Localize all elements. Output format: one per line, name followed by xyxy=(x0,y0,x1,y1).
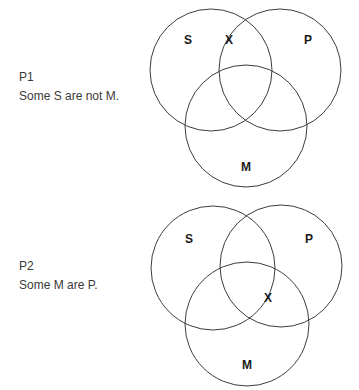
circle-p xyxy=(220,205,342,327)
venn-diagram-p2: SPMX xyxy=(151,205,342,386)
circle-label-m: M xyxy=(242,358,252,372)
circle-label-p: P xyxy=(305,232,313,246)
circle-p xyxy=(219,9,341,131)
circle-label-p: P xyxy=(304,33,312,47)
x-mark: X xyxy=(264,291,272,305)
circle-label-s: S xyxy=(184,33,192,47)
circle-s xyxy=(150,9,272,131)
circle-label-m: M xyxy=(241,160,251,174)
venn-diagrams: SPMXSPMX xyxy=(0,0,359,390)
venn-diagram-p1: SPMX xyxy=(150,9,341,187)
circle-s xyxy=(151,206,275,330)
x-mark: X xyxy=(225,33,233,47)
circle-label-s: S xyxy=(185,232,193,246)
